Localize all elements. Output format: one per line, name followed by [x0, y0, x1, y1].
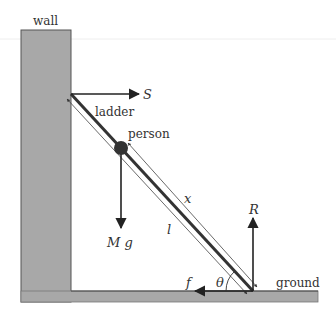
- theta-label: θ: [216, 275, 224, 290]
- person-mass: [114, 141, 128, 155]
- ground-label: ground: [276, 276, 320, 290]
- ladder-diagram: wall ground ladder person S M g R f θ x …: [0, 0, 336, 316]
- f-label: f: [185, 275, 193, 290]
- Mg-label: M g: [106, 235, 133, 250]
- wall-label: wall: [33, 14, 58, 28]
- ladder: [71, 94, 253, 291]
- x-label: x: [184, 191, 192, 206]
- distance-x-dimension: [128, 143, 257, 287]
- l-label: l: [167, 222, 171, 237]
- ground: [21, 291, 318, 302]
- person-label: person: [128, 127, 170, 141]
- R-label: R: [248, 202, 259, 217]
- angle-theta-arc: [226, 271, 235, 291]
- S-label: S: [143, 87, 152, 102]
- ladder-label: ladder: [95, 105, 134, 119]
- wall: [21, 30, 71, 302]
